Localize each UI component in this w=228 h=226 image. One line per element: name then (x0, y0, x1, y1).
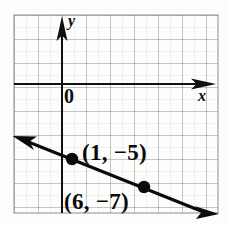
grid-major-lines (14, 15, 218, 213)
data-point-a (66, 153, 78, 165)
origin-label: 0 (64, 86, 74, 106)
coordinate-plane-figure: 0 y x (1, −5) (6, −7) (0, 0, 228, 226)
x-axis-label: x (198, 88, 206, 104)
grid-group (14, 15, 218, 213)
y-axis-label: y (68, 13, 75, 29)
data-point-b (138, 181, 150, 193)
point-a-label: (1, −5) (82, 141, 147, 164)
point-b-label: (6, −7) (64, 190, 129, 213)
